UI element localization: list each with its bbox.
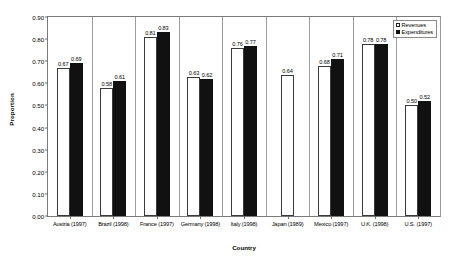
plot-area: 0.000.100.200.300.400.500.600.700.800.90… (47, 16, 441, 217)
legend: RevenuesExpenditures (393, 20, 437, 38)
bar-expenditures (331, 59, 344, 216)
bar-value-label: 0.61 (115, 74, 126, 80)
x-axis-tick-mark (244, 216, 245, 219)
x-axis-tick-mark (113, 216, 114, 219)
x-axis-tick-mark (288, 216, 289, 219)
bar-value-label: 0.64 (282, 68, 293, 74)
bar-value-label: 0.69 (71, 56, 82, 62)
bar-value-label: 0.68 (319, 59, 330, 65)
bar-value-label: 0.78 (376, 37, 387, 43)
x-axis-tick-mark (331, 216, 332, 219)
bar-revenues (362, 44, 375, 216)
bar-revenues (57, 68, 70, 216)
bar-expenditures (70, 63, 83, 216)
x-axis-tick-label: Austria (1997) (53, 221, 87, 227)
bar-revenues (187, 77, 200, 216)
x-axis-tick-label: U.K. (1998) (361, 221, 388, 227)
legend-item: Expenditures (396, 29, 433, 35)
bar-value-label: 0.81 (145, 30, 156, 36)
bar-expenditures (157, 32, 170, 216)
bar-expenditures (113, 81, 126, 216)
bar-revenues (318, 66, 331, 216)
x-axis-tick-mark (418, 216, 419, 219)
bar-expenditures (418, 101, 431, 216)
bar-group: 0.500.52U.S. (1997) (396, 17, 440, 216)
x-axis-tick-mark (70, 216, 71, 219)
bar-group: 0.810.83France (1997) (135, 17, 179, 216)
bar-value-label: 0.77 (245, 39, 256, 45)
bar-revenues (231, 48, 244, 216)
x-axis-tick-label: Mexico (1997) (314, 221, 348, 227)
bar-value-label: 0.58 (102, 81, 113, 87)
bar-group: 0.680.71Mexico (1997) (309, 17, 353, 216)
bar-expenditures (244, 46, 257, 216)
legend-label: Revenues (402, 22, 426, 28)
x-axis-tick-label: Japan (1989) (272, 221, 304, 227)
x-axis-tick-mark (157, 216, 158, 219)
legend-label: Expenditures (402, 29, 433, 35)
bar-group: 0.760.77Italy (1998) (222, 17, 266, 216)
x-axis-tick-mark (200, 216, 201, 219)
bar-value-label: 0.76 (232, 41, 243, 47)
legend-swatch-revenues (396, 23, 400, 27)
x-axis-tick-label: U.S. (1997) (404, 221, 431, 227)
y-axis-title: Proportion (2, 0, 20, 218)
bar-value-label: 0.63 (189, 70, 200, 76)
x-axis-tick-label: Italy (1998) (231, 221, 258, 227)
legend-item: Revenues (396, 22, 433, 28)
bar-value-label: 0.83 (158, 25, 169, 31)
legend-swatch-expenditures (396, 30, 400, 34)
x-axis-tick-label: Germany (1998) (181, 221, 220, 227)
bar-expenditures (200, 79, 213, 216)
bar-value-label: 0.67 (58, 61, 69, 67)
bar-revenues (405, 105, 418, 216)
bar-group: 0.670.69Austria (1997) (48, 17, 92, 216)
bar-revenues (144, 37, 157, 216)
bar-expenditures (375, 44, 388, 216)
bar-revenues (281, 75, 294, 217)
bar-group: 0.64Japan (1989) (266, 17, 310, 216)
bar-value-label: 0.71 (332, 52, 343, 58)
bar-revenues (100, 88, 113, 216)
x-axis-title: Country (47, 244, 441, 251)
bar-value-label: 0.62 (202, 72, 213, 78)
bar-chart: Proportion 0.000.100.200.300.400.500.600… (0, 0, 451, 263)
bar-value-label: 0.52 (419, 94, 430, 100)
bar-group: 0.580.61Brazil (1998) (92, 17, 136, 216)
x-axis-tick-label: France (1997) (140, 221, 174, 227)
bar-value-label: 0.78 (363, 37, 374, 43)
x-axis-tick-label: Brazil (1998) (98, 221, 128, 227)
x-axis-tick-mark (375, 216, 376, 219)
y-axis-title-label: Proportion (8, 93, 15, 126)
bar-group: 0.630.62Germany (1998) (179, 17, 223, 216)
bar-group: 0.780.78U.K. (1998) (353, 17, 397, 216)
bar-value-label: 0.50 (406, 98, 417, 104)
